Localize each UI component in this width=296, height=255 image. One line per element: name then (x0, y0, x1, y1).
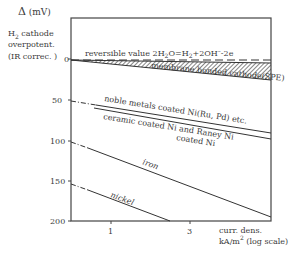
y-title-line1: H2 cathode (8, 29, 54, 40)
nickel-label: nickel (109, 190, 135, 207)
reversible-label: reversible value 2H2O=H2+2OH–-2e (85, 47, 234, 59)
y-tick-200: 200 (50, 217, 65, 226)
iron-line (88, 148, 271, 217)
y-title-line2: overpotent. (8, 40, 55, 49)
iron-dash (71, 142, 88, 148)
nickel-dash (71, 184, 88, 190)
noble-dash (71, 101, 96, 105)
y-tick-100: 100 (50, 137, 65, 146)
x-tick-1: 1 (108, 227, 113, 236)
y-tick-50: 50 (52, 96, 62, 105)
y-unit-label: Δ (mV) (18, 5, 51, 18)
overpotential-chart: Δ (mV) H2 cathode overpotent. (IR correc… (0, 0, 296, 255)
y-title-line3: (IR correc. ) (8, 52, 57, 61)
y-tick-0: 0 (64, 55, 69, 64)
x-title-line2: kA/m2 (log scale) (219, 234, 288, 246)
x-tick-3: 3 (187, 227, 192, 236)
y-tick-150: 150 (50, 177, 65, 186)
